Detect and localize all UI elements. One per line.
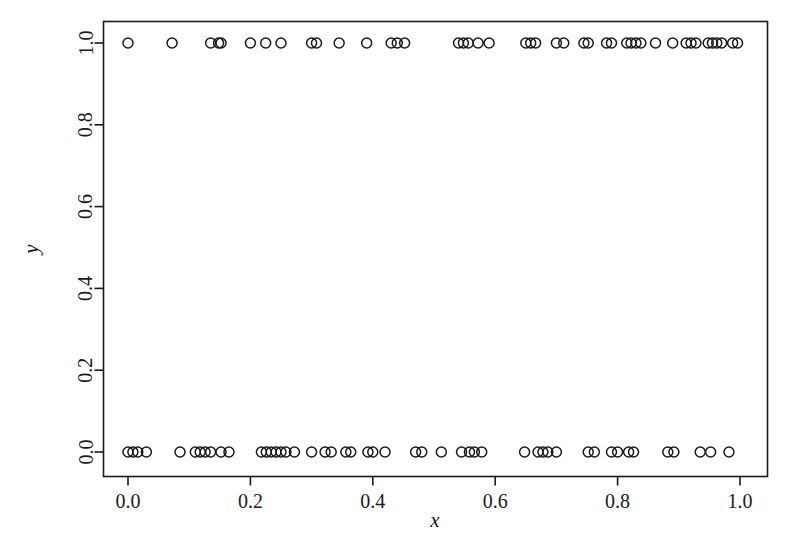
y-tick-label: 0.6	[75, 194, 97, 219]
y-tick-label: 0.8	[75, 112, 97, 137]
data-point	[668, 38, 678, 48]
data-point	[175, 447, 185, 457]
data-point	[695, 447, 705, 457]
data-point	[651, 38, 661, 48]
y-axis-tick-labels: 0.00.20.40.60.81.0	[75, 31, 97, 465]
data-point	[417, 447, 427, 457]
x-axis-title: x	[429, 508, 440, 532]
data-point	[307, 447, 317, 457]
data-point	[334, 38, 344, 48]
plot-frame	[104, 22, 768, 477]
x-tick-label: 0.2	[238, 490, 263, 512]
data-point	[326, 447, 336, 457]
data-point	[669, 447, 679, 457]
data-point	[436, 447, 446, 457]
data-point	[167, 38, 177, 48]
plot-canvas: 0.00.20.40.60.81.0 0.00.20.40.60.81.0 x …	[0, 0, 803, 557]
y-tick-label: 0.4	[75, 276, 97, 301]
data-point	[706, 447, 716, 457]
data-point	[589, 447, 599, 457]
data-point	[261, 38, 271, 48]
data-point	[245, 38, 255, 48]
y-axis-title: y	[19, 244, 43, 256]
data-point	[362, 38, 372, 48]
data-point	[276, 38, 286, 48]
data-point	[473, 38, 483, 48]
scatter-plot-figure: 0.00.20.40.60.81.0 0.00.20.40.60.81.0 x …	[0, 0, 803, 557]
data-point	[724, 447, 734, 457]
data-point	[484, 38, 494, 48]
y-axis-tick-marks	[95, 43, 104, 452]
x-tick-label: 0.4	[360, 490, 385, 512]
x-axis-tick-marks	[128, 477, 740, 486]
data-point	[559, 38, 569, 48]
y-tick-label: 0.2	[75, 358, 97, 383]
y-tick-label: 1.0	[75, 31, 97, 56]
x-tick-label: 0.8	[605, 490, 630, 512]
data-point	[613, 447, 623, 457]
y-tick-label: 0.0	[75, 440, 97, 465]
x-tick-label: 1.0	[728, 490, 753, 512]
data-point	[380, 447, 390, 457]
data-point	[520, 447, 530, 457]
data-point	[477, 447, 487, 457]
data-point	[123, 38, 133, 48]
x-tick-label: 0.6	[483, 490, 508, 512]
x-tick-label: 0.0	[116, 490, 141, 512]
data-points-layer	[123, 38, 743, 457]
data-point	[400, 38, 410, 48]
